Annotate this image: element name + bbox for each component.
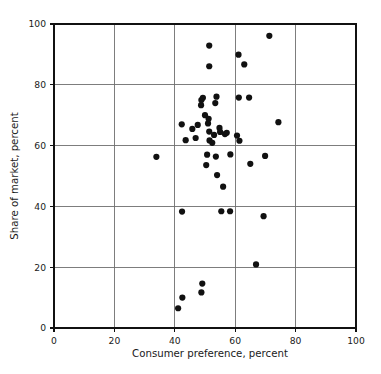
data-point bbox=[213, 94, 219, 100]
data-point bbox=[236, 138, 242, 144]
data-point bbox=[236, 94, 242, 100]
data-point bbox=[195, 122, 201, 128]
x-tick-label: 100 bbox=[347, 335, 365, 346]
data-point bbox=[153, 154, 159, 160]
x-tick-label: 40 bbox=[169, 335, 181, 346]
y-axis-title: Share of market, percent bbox=[9, 112, 20, 239]
x-tick-label: 20 bbox=[109, 335, 121, 346]
data-point bbox=[211, 132, 217, 138]
chart-canvas: 020406080100020406080100 Consumer prefer… bbox=[0, 0, 381, 374]
data-point bbox=[262, 153, 268, 159]
data-point bbox=[179, 295, 185, 301]
data-point bbox=[203, 162, 209, 168]
data-point bbox=[199, 281, 205, 287]
data-point bbox=[183, 137, 189, 143]
data-point bbox=[227, 208, 233, 214]
x-tick-label: 80 bbox=[290, 335, 302, 346]
data-point bbox=[209, 140, 215, 146]
data-point bbox=[206, 63, 212, 69]
data-point bbox=[220, 184, 226, 190]
data-point bbox=[175, 305, 181, 311]
plot-background bbox=[0, 0, 381, 374]
data-point bbox=[206, 42, 212, 48]
y-tick-label: 80 bbox=[34, 79, 46, 90]
data-point bbox=[179, 121, 185, 127]
data-point bbox=[253, 261, 259, 267]
data-point bbox=[189, 126, 195, 132]
data-point bbox=[266, 33, 272, 39]
data-point bbox=[213, 153, 219, 159]
data-point bbox=[212, 100, 218, 106]
data-point bbox=[235, 52, 241, 58]
data-point bbox=[241, 61, 247, 67]
data-point bbox=[214, 172, 220, 178]
y-tick-label: 100 bbox=[28, 18, 46, 29]
data-point bbox=[246, 94, 252, 100]
data-point bbox=[224, 130, 230, 136]
y-tick-label: 20 bbox=[34, 262, 46, 273]
data-point bbox=[227, 151, 233, 157]
scatter-chart: 020406080100020406080100 Consumer prefer… bbox=[0, 0, 381, 374]
data-point bbox=[202, 112, 208, 118]
data-point bbox=[260, 213, 266, 219]
x-tick-label: 0 bbox=[51, 335, 57, 346]
data-point bbox=[198, 289, 204, 295]
data-point bbox=[247, 161, 253, 167]
x-axis-title: Consumer preference, percent bbox=[132, 348, 288, 359]
data-point bbox=[200, 95, 206, 101]
y-tick-label: 40 bbox=[34, 201, 46, 212]
data-point bbox=[193, 135, 199, 141]
data-point bbox=[218, 208, 224, 214]
x-tick-label: 60 bbox=[229, 335, 241, 346]
data-point bbox=[275, 119, 281, 125]
data-point bbox=[179, 208, 185, 214]
y-tick-label: 0 bbox=[40, 322, 46, 333]
data-point bbox=[204, 152, 210, 158]
y-tick-label: 60 bbox=[34, 140, 46, 151]
